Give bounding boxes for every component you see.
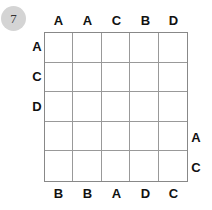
grid-cell[interactable] — [102, 151, 130, 181]
top-clue: D — [159, 14, 188, 28]
grid-cell[interactable] — [45, 33, 73, 63]
puzzle-grid — [44, 32, 188, 182]
grid-cell[interactable] — [102, 63, 130, 93]
bottom-clue: B — [44, 187, 73, 201]
grid-cell[interactable] — [45, 151, 73, 181]
top-clue: C — [102, 14, 131, 28]
top-clue: A — [73, 14, 102, 28]
grid-cell[interactable] — [73, 122, 101, 152]
grid-cell[interactable] — [159, 92, 187, 122]
grid-cell[interactable] — [73, 63, 101, 93]
right-clue: A — [190, 131, 202, 145]
grid-cell[interactable] — [45, 63, 73, 93]
grid-cell[interactable] — [159, 122, 187, 152]
grid-cell[interactable] — [45, 92, 73, 122]
left-clue: A — [31, 40, 43, 54]
grid-cell[interactable] — [102, 92, 130, 122]
bottom-clue: D — [131, 187, 160, 201]
grid-cell[interactable] — [130, 151, 158, 181]
puzzle-number-badge: 7 — [1, 6, 26, 31]
grid-cell[interactable] — [73, 92, 101, 122]
grid-cell[interactable] — [159, 33, 187, 63]
grid-cell[interactable] — [159, 151, 187, 181]
grid-cell[interactable] — [102, 122, 130, 152]
bottom-clue: B — [73, 187, 102, 201]
left-clue: D — [31, 100, 43, 114]
grid-cell[interactable] — [73, 151, 101, 181]
grid-cell[interactable] — [130, 122, 158, 152]
left-clue: C — [31, 70, 43, 84]
grid-cell[interactable] — [130, 63, 158, 93]
grid-cell[interactable] — [73, 33, 101, 63]
bottom-clue: A — [102, 187, 131, 201]
grid-cell[interactable] — [102, 33, 130, 63]
grid-cell[interactable] — [130, 92, 158, 122]
grid-cell[interactable] — [130, 33, 158, 63]
top-clue: A — [44, 14, 73, 28]
puzzle-number: 7 — [10, 11, 17, 27]
bottom-clue: C — [159, 187, 188, 201]
grid-cell[interactable] — [45, 122, 73, 152]
top-clue: B — [131, 14, 160, 28]
grid-cell[interactable] — [159, 63, 187, 93]
right-clue: C — [190, 161, 202, 175]
